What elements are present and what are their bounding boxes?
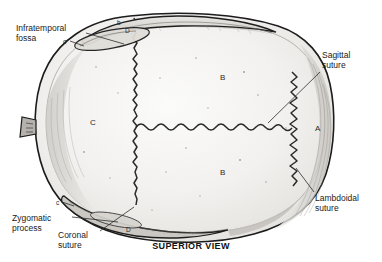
- marker-b-top-edge: b: [117, 19, 121, 26]
- marker-c-bottom: c: [56, 199, 59, 206]
- figure-caption: SUPERIOR VIEW: [0, 241, 382, 251]
- marker-d-bottom: D: [126, 226, 131, 233]
- annotation-zygomatic-process: Zygomatic process: [12, 213, 51, 233]
- marker-a-occipital: A: [315, 124, 320, 133]
- marker-c-top: c: [63, 38, 66, 45]
- marker-c-parietal: C: [90, 118, 96, 127]
- annotation-sagittal-suture: Sagittal suture: [322, 50, 350, 70]
- annotation-infratemporal-fossa: Infratemporal fossa: [16, 23, 66, 43]
- left-lateral-process: [20, 117, 36, 137]
- annotation-lambdoidal-suture: Lambdoidal suture: [315, 193, 359, 213]
- marker-b-upper: B: [220, 73, 225, 82]
- marker-b-lower: B: [220, 168, 225, 177]
- figure-page: Infratemporal fossa Sagittal suture Lamb…: [0, 0, 382, 262]
- marker-d-top: D: [125, 27, 130, 34]
